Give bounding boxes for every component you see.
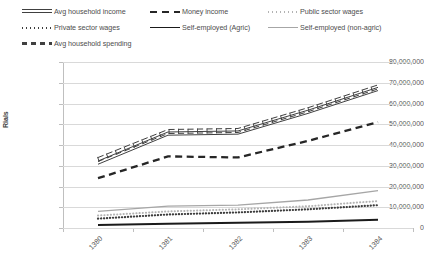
series-5 [98, 205, 378, 218]
legend-item-1[interactable]: Money income [150, 6, 228, 17]
legend-item-2[interactable]: Public sector wages [268, 6, 363, 17]
legend-item-label: Self-employed (Agric) [182, 24, 250, 32]
legend-item-label: Avg household spending [54, 40, 132, 48]
legend-item-label: Private sector wages [54, 24, 120, 32]
legend-item-label: Money income [182, 8, 228, 16]
chart-legend: Avg household incomeMoney incomePublic s… [0, 0, 424, 52]
legend-key-icon [268, 23, 298, 32]
legend-item-3[interactable]: Private sector wages [22, 22, 120, 33]
series-lines [63, 62, 413, 228]
legend-key-icon [150, 7, 180, 16]
series-3 [98, 191, 378, 212]
x-axis-tick-label: 1380 [77, 234, 105, 261]
series-0 [98, 85, 378, 162]
legend-key-icon [150, 23, 180, 32]
gridline [63, 228, 413, 229]
plot-area [63, 62, 413, 228]
legend-item-4[interactable]: Self-employed (Agric) [150, 22, 250, 33]
legend-item-5[interactable]: Self-employed (non-agric) [268, 22, 381, 33]
series-6 [98, 220, 378, 225]
y-axis-title: Rials [2, 111, 9, 128]
legend-item-0[interactable]: Avg household income [22, 6, 126, 17]
x-axis-tick-mark [413, 228, 414, 232]
line-chart: Avg household incomeMoney incomePublic s… [0, 0, 424, 261]
x-axis-tick-label: 1383 [287, 234, 315, 261]
legend-item-6[interactable]: Avg household spending [22, 38, 132, 49]
x-axis-tick-label: 1381 [147, 234, 175, 261]
legend-key-icon [22, 23, 52, 32]
legend-key-icon [22, 39, 52, 48]
legend-item-label: Avg household income [54, 8, 126, 16]
legend-item-label: Self-employed (non-agric) [300, 24, 381, 32]
legend-item-label: Public sector wages [300, 8, 363, 16]
x-axis-tick-label: 1382 [217, 234, 245, 261]
legend-key-icon [268, 7, 298, 16]
x-axis-tick-label: 1384 [357, 234, 385, 261]
legend-key-icon [22, 7, 52, 16]
